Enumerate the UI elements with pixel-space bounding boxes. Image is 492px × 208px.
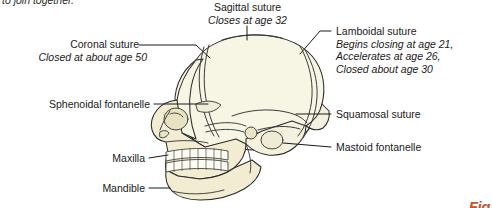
label-sagittal-suture-term: Sagittal suture	[175, 1, 320, 14]
label-mandible-term: Mandible	[102, 182, 145, 194]
label-coronal-suture: Coronal suture Closed at about age 50	[0, 38, 139, 63]
label-lamboidal-suture-note-3: Closed about age 30	[336, 63, 453, 76]
label-maxilla-term: Maxilla	[112, 152, 145, 164]
label-coronal-suture-note: Closed at about age 50	[0, 51, 147, 64]
label-mandible: Mandible	[0, 182, 145, 195]
label-sagittal-suture: Sagittal suture Closes at age 32	[175, 1, 320, 26]
figure-canvas: to join together.	[0, 0, 492, 208]
label-lamboidal-suture-note-2: Accelerates at age 26,	[336, 50, 453, 63]
leader-mastoid	[283, 143, 331, 147]
label-lamboidal-suture: Lamboidal suture Begins closing at age 2…	[336, 25, 453, 75]
leader-maxilla	[149, 155, 168, 158]
figure-number-mark: Fig	[469, 198, 490, 208]
leader-lamboidal	[300, 31, 331, 54]
label-squamosal-suture-term: Squamosal suture	[336, 108, 421, 120]
leader-coronal	[139, 45, 210, 58]
label-maxilla: Maxilla	[0, 152, 145, 165]
label-squamosal-suture: Squamosal suture	[336, 108, 421, 121]
clipped-caption-text: to join together.	[2, 0, 74, 7]
label-lamboidal-suture-note-1: Begins closing at age 21,	[336, 38, 453, 51]
label-coronal-suture-term: Coronal suture	[0, 38, 139, 51]
label-sagittal-suture-note: Closes at age 32	[175, 14, 320, 27]
label-lamboidal-suture-term: Lamboidal suture	[336, 25, 453, 38]
label-mastoid-fontanelle: Mastoid fontanelle	[336, 141, 421, 154]
label-mastoid-fontanelle-term: Mastoid fontanelle	[336, 141, 421, 153]
label-sphenoidal-fontanelle-term: Sphenoidal fontanelle	[49, 98, 150, 110]
label-sphenoidal-fontanelle: Sphenoidal fontanelle	[0, 98, 150, 111]
